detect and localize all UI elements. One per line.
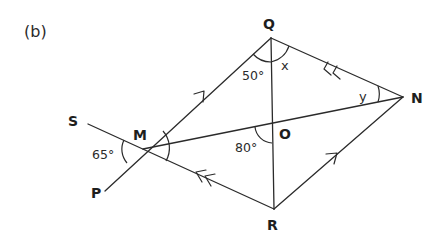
line-QN bbox=[271, 38, 403, 97]
part-label: (b) bbox=[24, 22, 47, 41]
angle-label-OQN: x bbox=[281, 58, 289, 73]
point-label-P: P bbox=[91, 185, 101, 201]
double-arrow-mark-NQ bbox=[324, 62, 340, 79]
point-label-R: R bbox=[267, 217, 278, 233]
angle-arc-QNM bbox=[378, 86, 379, 102]
angle-label-QNM: y bbox=[359, 89, 367, 104]
angle-arc-QMN bbox=[163, 131, 169, 161]
angle-label-MOR: 80° bbox=[235, 140, 257, 155]
angle-label-SMP: 65° bbox=[92, 147, 114, 162]
angle-label-MQO: 50° bbox=[242, 68, 264, 83]
line-RN bbox=[274, 97, 403, 209]
line-SR bbox=[88, 124, 274, 209]
point-label-S: S bbox=[68, 113, 78, 129]
angle-arc-MOR bbox=[255, 127, 272, 143]
angle-arc-SMP bbox=[122, 140, 127, 163]
point-label-M: M bbox=[133, 127, 147, 143]
line-PQ bbox=[105, 38, 271, 191]
geometry-diagram: (b) S M P Q N R O 65° 50° x y 80° bbox=[0, 0, 442, 241]
point-label-Q: Q bbox=[263, 16, 275, 32]
point-label-N: N bbox=[411, 90, 423, 106]
angle-arc-MQO bbox=[253, 54, 271, 62]
point-label-O: O bbox=[279, 126, 291, 142]
